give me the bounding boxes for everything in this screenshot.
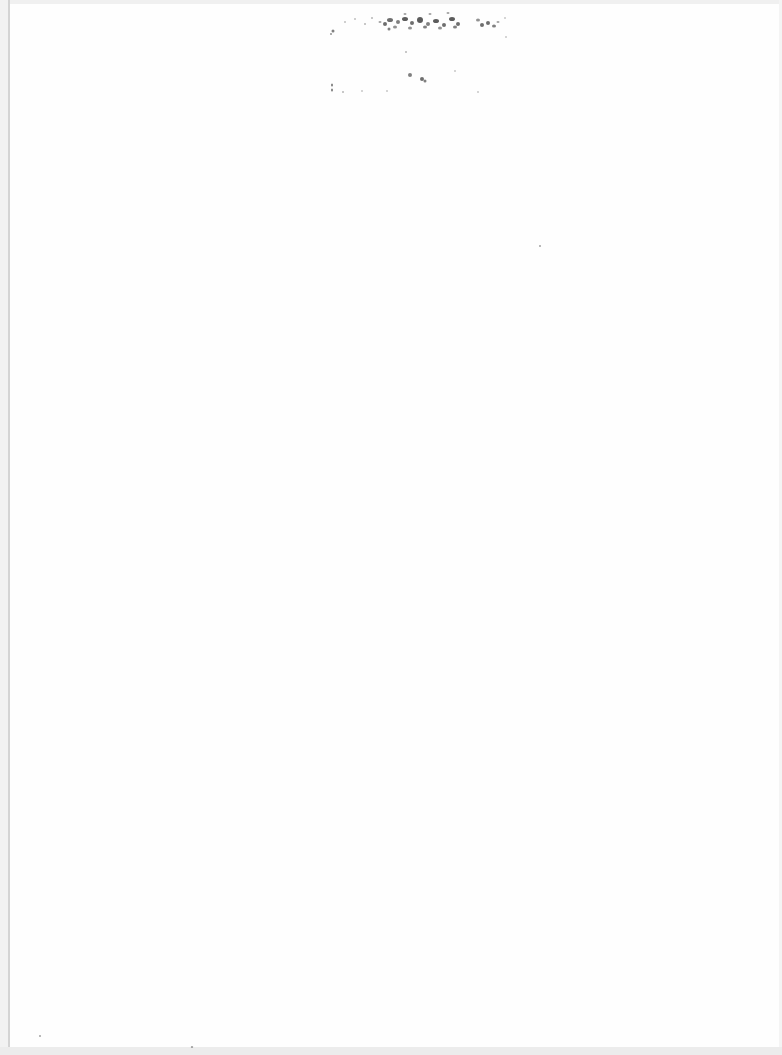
blank-page [0,0,782,1055]
scan-noise-speckles [0,0,782,1055]
